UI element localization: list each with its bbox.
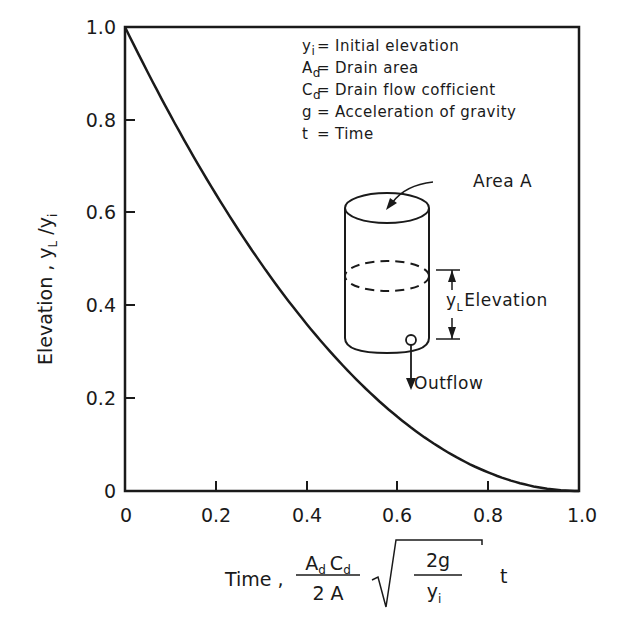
svg-text:t: t — [500, 565, 507, 587]
outflow-label: Outflow — [414, 373, 483, 393]
y-tick-0.8: 0.8 — [86, 109, 116, 131]
svg-text:Time ,: Time , — [224, 568, 284, 590]
y-tick-0.6: 0.6 — [86, 201, 116, 223]
chart-canvas: 0 0.2 0.4 0.6 0.8 1.0 0 0.2 0.4 0.6 0.8 … — [0, 0, 624, 628]
x-tick-labels: 0 0.2 0.4 0.6 0.8 1.0 — [120, 504, 597, 526]
legend-equals: = — [317, 103, 330, 121]
x-tick-0.4: 0.4 — [292, 504, 322, 526]
x-tick-0: 0 — [120, 504, 132, 526]
y-tick-0.2: 0.2 — [86, 387, 116, 409]
elevation-label: yLElevation — [446, 290, 548, 314]
area-a-label: Area A — [473, 171, 532, 191]
y-axis-label: Elevation , yL /yi — [34, 214, 60, 365]
tank-diagram — [345, 182, 460, 390]
fraction-numerator: AdCd — [305, 552, 351, 577]
legend-equals: = — [317, 81, 330, 99]
y-tick-1.0: 1.0 — [86, 16, 116, 38]
legend: yi=Initial elevationAd=Drain areaCd=Drai… — [302, 37, 516, 143]
x-axis-ticks — [216, 481, 488, 491]
fraction-denominator: 2 A — [312, 582, 343, 604]
y-tick-0.4: 0.4 — [86, 294, 116, 316]
x-tick-1.0: 1.0 — [567, 504, 597, 526]
legend-symbol: t — [302, 125, 308, 143]
y-tick-0: 0 — [104, 480, 116, 502]
legend-equals: = — [317, 59, 330, 77]
legend-symbol: g — [302, 103, 312, 121]
x-tick-0.2: 0.2 — [201, 504, 231, 526]
legend-description: Initial elevation — [335, 37, 459, 55]
legend-equals: = — [317, 125, 330, 143]
y-tick-labels: 0 0.2 0.4 0.6 0.8 1.0 — [86, 16, 116, 502]
x-tick-0.8: 0.8 — [473, 504, 503, 526]
svg-text:yi: yi — [427, 580, 442, 606]
legend-description: Acceleration of gravity — [335, 103, 516, 121]
x-axis-label: Time , AdCd 2 A 2g yi t — [224, 540, 507, 607]
svg-text:2g: 2g — [426, 549, 450, 571]
legend-description: Drain flow cofficient — [335, 81, 496, 99]
legend-symbol: yi — [302, 37, 315, 58]
legend-equals: = — [317, 37, 330, 55]
legend-description: Time — [334, 125, 374, 143]
y-axis-ticks — [125, 120, 135, 398]
x-tick-0.6: 0.6 — [382, 504, 412, 526]
legend-description: Drain area — [335, 59, 419, 77]
